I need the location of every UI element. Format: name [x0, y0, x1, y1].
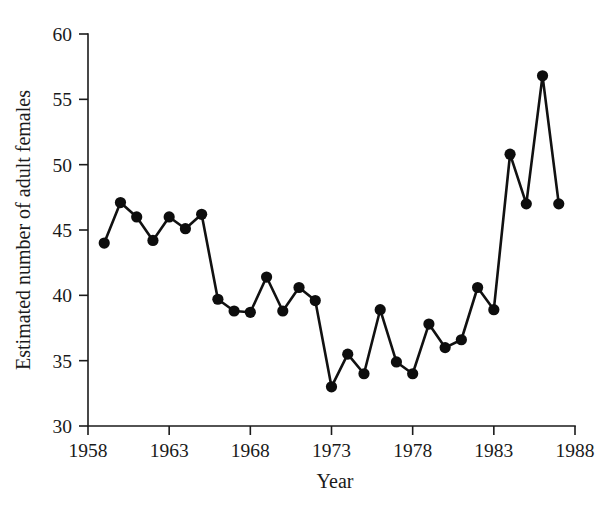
data-point — [293, 282, 304, 293]
data-point — [488, 304, 499, 315]
x-axis-ticks — [88, 426, 575, 435]
y-axis-tick-labels: 30354045505560 — [53, 24, 73, 437]
data-point — [229, 305, 240, 316]
data-point — [115, 197, 126, 208]
data-point — [261, 271, 272, 282]
line-chart: 30354045505560 1958196319681973197819831… — [0, 0, 614, 508]
x-tick-label: 1958 — [69, 440, 108, 461]
y-tick-label: 60 — [53, 24, 73, 45]
data-point — [521, 198, 532, 209]
data-point — [245, 307, 256, 318]
y-tick-label: 45 — [53, 220, 73, 241]
data-point — [99, 237, 110, 248]
data-point — [504, 149, 515, 160]
y-tick-label: 40 — [53, 285, 73, 306]
x-axis-tick-labels: 1958196319681973197819831988 — [69, 440, 595, 461]
data-point — [212, 294, 223, 305]
chart-figure: 30354045505560 1958196319681973197819831… — [0, 0, 614, 508]
data-point — [180, 223, 191, 234]
data-point — [277, 305, 288, 316]
y-tick-label: 50 — [53, 155, 73, 176]
y-tick-label: 55 — [53, 89, 73, 110]
x-tick-label: 1973 — [312, 440, 351, 461]
data-series-line — [104, 76, 559, 387]
x-axis-title: Year — [317, 470, 354, 492]
data-point — [553, 198, 564, 209]
data-point — [391, 356, 402, 367]
data-point — [423, 318, 434, 329]
y-axis-title: Estimated number of adult females — [12, 90, 34, 370]
data-point — [456, 334, 467, 345]
data-point — [310, 295, 321, 306]
data-point — [472, 282, 483, 293]
data-point — [342, 349, 353, 360]
data-point — [196, 209, 207, 220]
data-point — [164, 211, 175, 222]
data-point — [407, 368, 418, 379]
data-point — [131, 211, 142, 222]
data-point — [375, 304, 386, 315]
data-point — [358, 368, 369, 379]
y-axis-ticks — [79, 34, 88, 426]
x-tick-label: 1988 — [556, 440, 595, 461]
data-point — [326, 381, 337, 392]
x-tick-label: 1978 — [393, 440, 432, 461]
data-point — [147, 235, 158, 246]
y-tick-label: 30 — [53, 416, 73, 437]
y-tick-label: 35 — [53, 351, 73, 372]
x-tick-label: 1963 — [150, 440, 189, 461]
x-tick-label: 1968 — [231, 440, 270, 461]
data-series-points — [99, 70, 565, 392]
data-point — [440, 342, 451, 353]
data-point — [537, 70, 548, 81]
x-tick-label: 1983 — [474, 440, 513, 461]
